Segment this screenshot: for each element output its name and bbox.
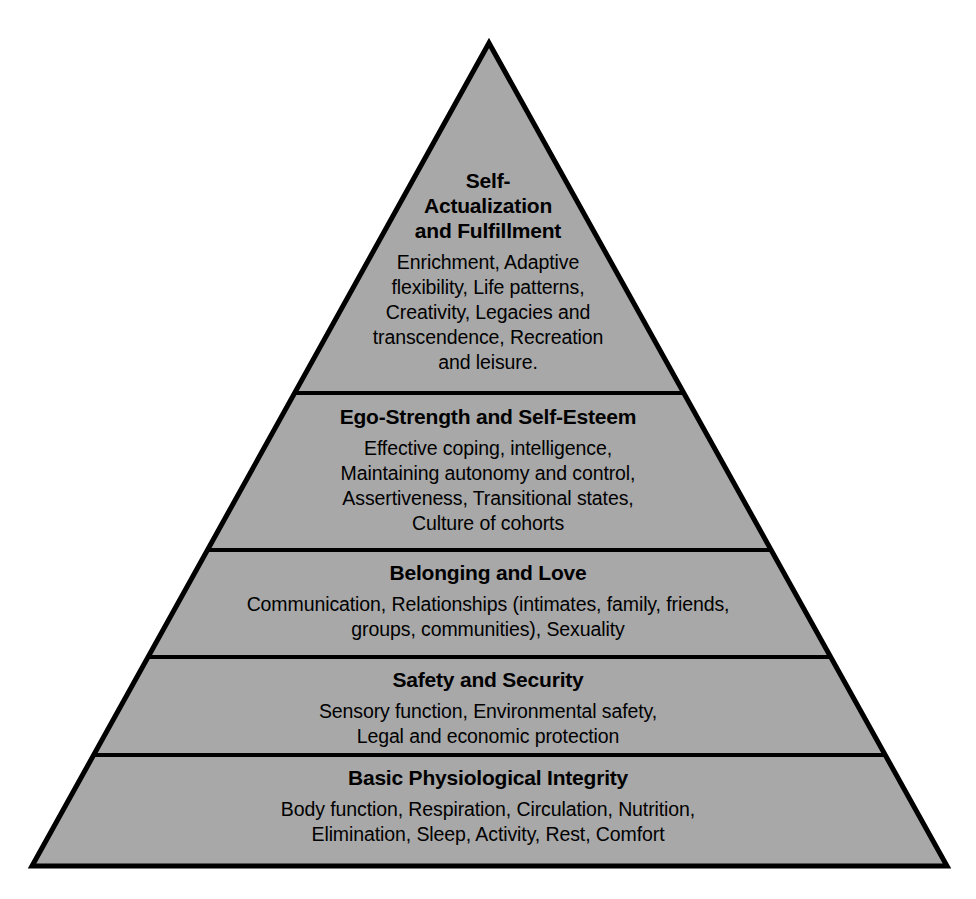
pyramid-level-title: Basic Physiological Integrity xyxy=(348,765,628,791)
pyramid-level-body: Communication, Relationships (intimates,… xyxy=(247,592,730,642)
pyramid-level-body: Effective coping, intelligence, Maintain… xyxy=(341,436,636,536)
pyramid-level-title: Self- Actualization and Fulfillment xyxy=(415,168,561,243)
pyramid-level-body: Body function, Respiration, Circulation,… xyxy=(281,797,695,847)
pyramid-level-title: Safety and Security xyxy=(392,667,583,693)
hierarchy-of-needs-pyramid: Self- Actualization and Fulfillment Enri… xyxy=(0,0,976,899)
pyramid-level-basic-physiological-integrity: Basic Physiological Integrity Body funct… xyxy=(0,765,976,847)
pyramid-level-body: Sensory function, Environmental safety, … xyxy=(319,699,657,749)
pyramid-level-title: Belonging and Love xyxy=(389,560,586,586)
pyramid-level-safety-and-security: Safety and Security Sensory function, En… xyxy=(0,667,976,749)
pyramid-level-body: Enrichment, Adaptive flexibility, Life p… xyxy=(373,250,604,375)
pyramid-level-title: Ego-Strength and Self-Esteem xyxy=(340,404,637,430)
